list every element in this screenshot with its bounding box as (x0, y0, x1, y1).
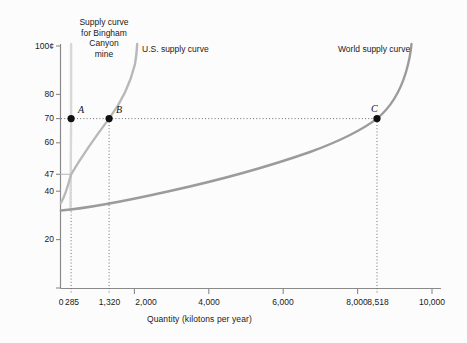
y-tick-label-60: 60 (14, 137, 54, 147)
x-tick-label-1320: 1,320 (91, 297, 128, 307)
y-tick-label-80: 80 (14, 89, 54, 99)
point-label-c: C (371, 103, 378, 114)
series-world-supply-curve (61, 44, 412, 211)
series-label-us-supply: U.S. supply curve (142, 44, 238, 55)
x-tick-label-2000: 2,000 (127, 297, 165, 307)
point-label-a: A (78, 104, 84, 115)
x-axis-title: Quantity (kilotons per year) (147, 314, 252, 324)
x-tick-label-10000: 10,000 (410, 297, 454, 307)
x-tick-label-6000: 6,000 (264, 297, 302, 307)
x-tick-label-8518: 8,518 (361, 297, 395, 307)
series-label-world-supply: World supply curve (338, 44, 440, 55)
y-tick-label-40: 40 (14, 186, 54, 196)
point-label-b: B (116, 104, 122, 115)
y-tick-label-70: 70 (14, 113, 54, 123)
y-tick-label-20: 20 (14, 234, 54, 244)
y-tick-label-100: 100¢ (14, 41, 54, 51)
data-point-c (373, 115, 380, 122)
y-tick-marks (56, 46, 61, 288)
x-tick-label-4000: 4,000 (190, 297, 228, 307)
y-tick-label-47: 47 (14, 169, 54, 179)
x-tick-marks (134, 289, 432, 295)
data-point-b (106, 115, 113, 122)
data-point-a (68, 115, 75, 122)
series-label-bingham-canyon: Supply curve for Bingham Canyon mine (68, 17, 140, 59)
x-tick-label-285: 285 (58, 297, 86, 307)
supply-curve-chart: 100¢ 80 70 60 47 40 20 0 285 1,320 2,000… (0, 0, 467, 343)
series-bingham-canyon-curve (71, 44, 72, 210)
